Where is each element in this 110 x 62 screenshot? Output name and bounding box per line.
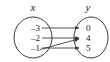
domain-element-neg3: –3 (22, 24, 40, 33)
domain-element-neg2: –2 (22, 34, 40, 43)
domain-set-header: x (25, 2, 41, 13)
range-element-0: 0 (86, 24, 100, 33)
domain-element-neg1: –1 (22, 44, 40, 53)
range-set-header: y (80, 2, 96, 13)
mapping-diagram: x y –3 –2 –1 0 4 5 (0, 0, 110, 62)
range-element-4: 4 (86, 34, 100, 43)
range-element-5: 5 (86, 44, 100, 53)
